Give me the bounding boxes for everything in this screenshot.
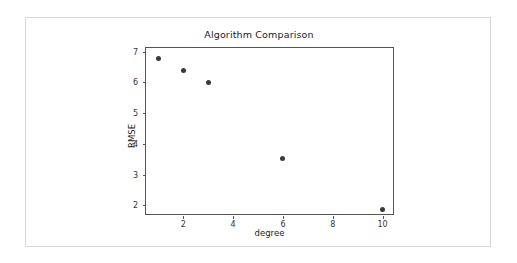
data-point [181,68,186,73]
y-axis-tick-label: 5 [133,109,138,118]
y-axis-tick [143,144,146,145]
x-axis-tick [283,216,284,219]
screenshot-root: Algorithm Comparison 246810234567 degree… [0,0,517,263]
y-axis-label: RMSE [127,124,137,148]
x-axis-tick [183,216,184,219]
y-axis-tick-label: 2 [133,201,138,210]
y-axis-tick [143,52,146,53]
data-point [280,156,285,161]
plot-area: 246810234567 [145,47,394,215]
y-axis-tick [143,82,146,83]
x-axis-tick [383,216,384,219]
x-axis-label: degree [145,228,394,238]
y-axis-tick [143,175,146,176]
y-axis-tick-label: 6 [133,78,138,87]
x-axis-tick [333,216,334,219]
y-axis-tick-label: 3 [133,170,138,179]
y-axis-tick [143,113,146,114]
scatter-series-layer [146,48,393,214]
y-axis-tick [143,205,146,206]
data-point [156,56,161,61]
chart-title: Algorithm Comparison [26,29,492,40]
data-point [380,207,385,212]
x-axis-tick [233,216,234,219]
figure-card: Algorithm Comparison 246810234567 degree… [25,17,491,247]
y-axis-tick-label: 7 [133,47,138,56]
data-point [206,80,211,85]
